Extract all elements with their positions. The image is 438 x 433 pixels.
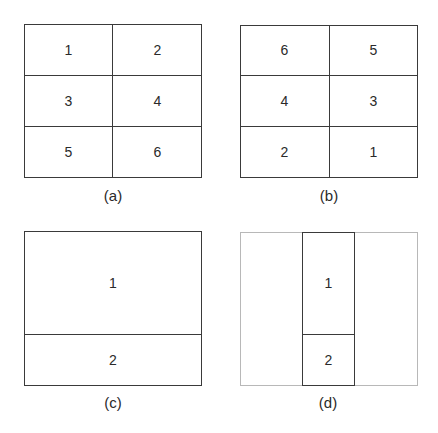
caption-a: (a) (63, 187, 163, 204)
cell-label: 3 (24, 75, 113, 126)
cell-label: 3 (329, 75, 418, 126)
caption-c: (c) (63, 394, 163, 411)
cell-label: 4 (240, 75, 329, 126)
cell-label: 5 (24, 126, 113, 177)
cell-label: 2 (113, 24, 202, 75)
cell-label: 1 (24, 24, 113, 75)
cell-label: 2 (302, 334, 355, 386)
cell-label: 2 (24, 334, 202, 386)
cell-label: 6 (113, 126, 202, 177)
caption-b: (b) (279, 187, 379, 204)
cell-label: 1 (302, 232, 355, 334)
cell-label: 2 (240, 126, 329, 177)
cell-label: 5 (329, 25, 418, 75)
cell-label: 4 (113, 75, 202, 126)
cell-label: 6 (240, 25, 329, 75)
caption-d: (d) (278, 394, 378, 411)
cell-label: 1 (24, 231, 202, 334)
cell-label: 1 (329, 126, 418, 177)
